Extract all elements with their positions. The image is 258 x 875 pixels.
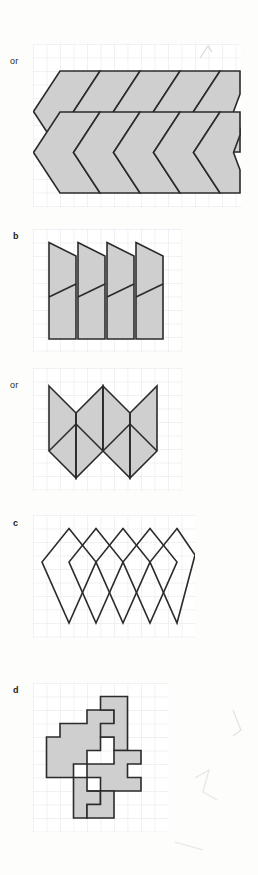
interlocking-polyomino-svg [33,683,168,832]
scan-artifact [175,700,258,870]
chevron-tessellation-svg [33,44,241,207]
figure-page: or [0,0,258,875]
grid-panel-b [33,229,182,352]
zigzag-chevron-tessellation-svg [33,368,182,491]
grid-panel-c [33,515,195,638]
slanted-quadrilateral-strip-svg [33,229,182,352]
grid-panel-b-or [33,368,182,491]
panel-label-c: c [13,519,18,528]
panel-label-b-or: or [10,381,18,390]
panel-label-b: b [13,232,19,241]
overlapping-rhombi-svg [33,515,195,638]
panel-label-d: d [13,686,19,695]
panel-label-a-or: or [10,57,18,66]
grid-panel-a [33,44,241,207]
grid-panel-d [33,683,168,832]
